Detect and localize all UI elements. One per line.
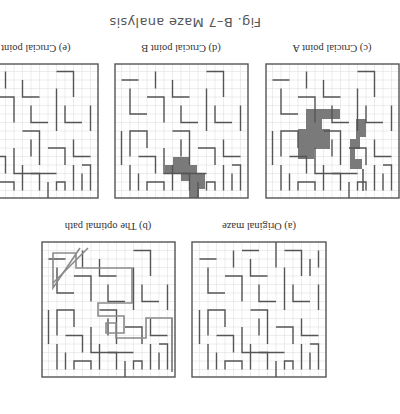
panel-c-crucial-point-a bbox=[265, 63, 400, 199]
maze-c-graphic bbox=[265, 63, 400, 199]
panel-b-optimal-path bbox=[41, 241, 176, 378]
panel-d-crucial-point-b bbox=[114, 63, 249, 199]
caption-e: (e) Crucial point C bbox=[0, 43, 89, 54]
caption-b: (b) The optimal path bbox=[50, 221, 166, 232]
crucial-region-a bbox=[298, 109, 375, 191]
maze-b-graphic bbox=[41, 241, 176, 378]
panel-a-original-maze bbox=[191, 241, 327, 378]
maze-d-graphic bbox=[114, 63, 249, 199]
crucial-region-b bbox=[165, 157, 205, 198]
maze-a-graphic bbox=[191, 241, 327, 378]
caption-d: (d) Crucial point B bbox=[123, 43, 239, 54]
maze-e-graphic bbox=[0, 63, 99, 199]
panel-e-crucial-point-c bbox=[0, 63, 99, 199]
caption-c: (c) Crucial point A bbox=[274, 43, 390, 54]
figure-title: Fig. B–7 Maze analysis bbox=[109, 15, 261, 30]
caption-a: (a) Original maze bbox=[201, 221, 317, 232]
